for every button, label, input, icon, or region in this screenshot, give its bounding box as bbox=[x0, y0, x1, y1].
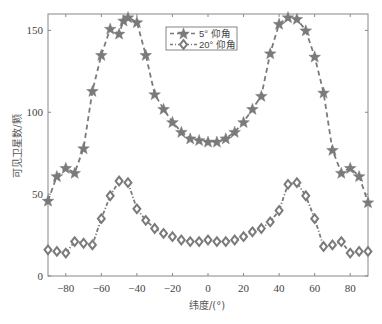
data-point-diamond bbox=[53, 247, 60, 256]
data-point-diamond bbox=[347, 249, 354, 258]
data-point-star bbox=[309, 51, 321, 62]
data-point-star bbox=[69, 167, 81, 178]
data-point-diamond bbox=[196, 237, 203, 246]
data-point-diamond bbox=[231, 236, 238, 245]
x-tick-label: −20 bbox=[164, 282, 182, 294]
x-tick-label: 40 bbox=[274, 282, 286, 294]
data-point-diamond bbox=[107, 191, 114, 200]
data-point-star bbox=[264, 48, 276, 59]
data-point-star bbox=[327, 144, 339, 155]
x-tick-label: −60 bbox=[93, 282, 111, 294]
series-20deg bbox=[45, 177, 372, 258]
legend: 5° 仰角 20° 仰角 bbox=[166, 27, 237, 50]
data-point-star bbox=[291, 13, 303, 24]
data-point-diamond bbox=[356, 247, 363, 256]
data-point-diamond bbox=[222, 237, 229, 246]
y-tick-label: 150 bbox=[27, 24, 44, 36]
data-point-star bbox=[95, 49, 107, 60]
data-point-diamond bbox=[285, 180, 292, 189]
y-tick-label: 50 bbox=[32, 188, 44, 200]
x-tick-label: 60 bbox=[309, 282, 321, 294]
data-point-star bbox=[193, 134, 205, 145]
data-point-diamond bbox=[365, 247, 372, 256]
data-point-diamond bbox=[338, 237, 345, 246]
data-point-diamond bbox=[311, 214, 318, 223]
data-point-diamond bbox=[320, 242, 327, 251]
data-point-diamond bbox=[116, 177, 123, 186]
x-tick-label: −40 bbox=[128, 282, 146, 294]
data-point-diamond bbox=[249, 227, 256, 236]
data-point-star bbox=[202, 136, 214, 147]
data-point-diamond bbox=[276, 206, 283, 215]
data-point-star bbox=[238, 116, 250, 127]
y-axis-title: 可见卫星数/颗 bbox=[11, 114, 23, 177]
data-point-diamond bbox=[125, 178, 132, 187]
data-point-diamond bbox=[98, 214, 105, 223]
data-point-star bbox=[247, 103, 259, 114]
data-point-diamond bbox=[89, 241, 96, 250]
data-point-diamond bbox=[329, 241, 336, 250]
data-point-diamond bbox=[160, 229, 167, 238]
data-point-diamond bbox=[213, 237, 220, 246]
chart: −80−60−40−20020406080050100150 5° 仰角 20°… bbox=[0, 0, 382, 324]
data-point-star bbox=[131, 16, 143, 27]
data-point-diamond bbox=[151, 224, 158, 233]
x-tick-label: 20 bbox=[238, 282, 250, 294]
data-point-star bbox=[149, 89, 161, 100]
data-point-diamond bbox=[45, 246, 52, 255]
y-tick-label: 0 bbox=[38, 270, 44, 282]
legend-label-20deg: 20° 仰角 bbox=[199, 39, 236, 50]
data-point-diamond bbox=[258, 224, 265, 233]
data-point-star bbox=[184, 133, 196, 144]
data-point-star bbox=[78, 143, 90, 154]
data-point-star bbox=[51, 170, 63, 181]
x-axis-title: 纬度/(°) bbox=[189, 299, 225, 311]
x-tick-label: 80 bbox=[345, 282, 357, 294]
data-point-star bbox=[273, 18, 285, 29]
data-point-diamond bbox=[187, 237, 194, 246]
y-tick-label: 100 bbox=[27, 106, 44, 118]
x-tick-label: −80 bbox=[57, 282, 75, 294]
x-tick-label: 0 bbox=[205, 282, 211, 294]
data-point-star bbox=[335, 167, 347, 178]
data-point-diamond bbox=[240, 232, 247, 241]
data-point-diamond bbox=[169, 232, 176, 241]
data-point-diamond bbox=[178, 236, 185, 245]
data-point-star bbox=[282, 12, 294, 23]
data-point-star bbox=[255, 90, 267, 101]
data-point-star bbox=[113, 28, 125, 39]
data-point-star bbox=[158, 103, 170, 114]
legend-label-5deg: 5° 仰角 bbox=[199, 28, 231, 39]
data-point-diamond bbox=[133, 205, 140, 214]
data-point-diamond bbox=[80, 239, 87, 248]
data-point-diamond bbox=[205, 236, 212, 245]
